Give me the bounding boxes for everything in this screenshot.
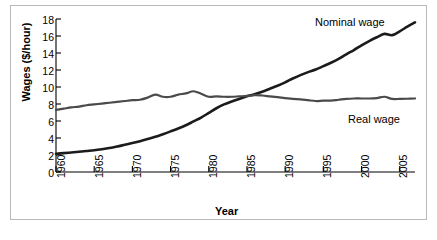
line-nominal-wage <box>56 22 415 153</box>
plot-svg <box>0 0 437 240</box>
x-tick-marks <box>56 166 400 172</box>
y-tick-marks <box>56 19 61 172</box>
figure-container: Wages ($/hour) 18 16 14 12 10 8 6 4 2 0 … <box>0 0 437 240</box>
